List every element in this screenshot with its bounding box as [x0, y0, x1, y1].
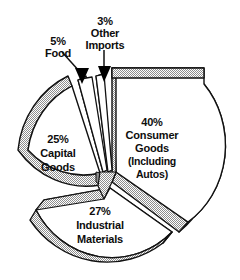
slice-consumer-goods-top-band: [112, 68, 204, 78]
pie-chart: 5% Food 3% Other Imports 40% Consumer Go…: [0, 0, 240, 280]
label-other-imports-name-2: Imports: [86, 39, 125, 51]
pie-chart-canvas: 5% Food 3% Other Imports 40% Consumer Go…: [0, 0, 240, 280]
label-other-imports-pct: 3%: [97, 15, 113, 27]
label-food-name: Food: [45, 47, 71, 59]
label-food-pct: 5%: [50, 35, 66, 47]
label-industrial-materials-name-2: Materials: [77, 233, 123, 245]
label-consumer-goods-name-1: Consumer: [126, 129, 180, 141]
label-capital-goods-name-1: Capital: [40, 147, 75, 159]
label-consumer-goods-name-3: (Including: [128, 155, 176, 167]
label-other-imports-name-1: Other: [91, 27, 120, 39]
label-consumer-goods-name-2: Goods: [135, 142, 169, 154]
label-industrial-materials-name-1: Industrial: [76, 219, 124, 231]
label-consumer-goods-name-4: Autos): [136, 168, 168, 180]
label-capital-goods-name-2: Goods: [41, 161, 75, 173]
label-consumer-goods-pct: 40%: [141, 116, 163, 128]
label-capital-goods-pct: 25%: [47, 133, 69, 145]
label-industrial-materials-pct: 27%: [89, 205, 111, 217]
slice-consumer-goods-wall-left: [112, 68, 116, 182]
